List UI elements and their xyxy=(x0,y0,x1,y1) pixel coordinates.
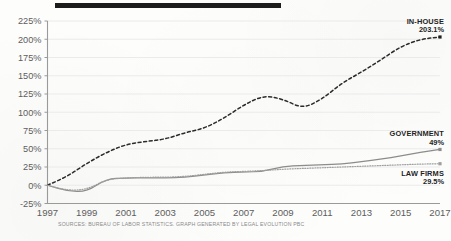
chart-figure: 225%200%175%150%125%100%75%50%25%0%-25% … xyxy=(0,0,451,241)
x-tick-label: 2001 xyxy=(115,207,136,218)
gridlines-group xyxy=(48,21,441,185)
y-tick-label: 50% xyxy=(23,144,41,154)
y-tick-label: 150% xyxy=(18,71,42,81)
y-tick-label: 125% xyxy=(18,89,42,99)
x-tick-label: 1999 xyxy=(76,207,97,218)
x-tick-label: 2003 xyxy=(155,207,176,218)
y-tick-label: 225% xyxy=(18,16,42,26)
y-tick-label: 75% xyxy=(23,126,41,136)
x-axis-tick-labels: 1997199920012003200520072009201120132015… xyxy=(37,207,451,218)
source-caption: SOURCES: BUREAU OF LABOR STATISTICS. GRA… xyxy=(58,221,304,227)
series-value-law-firms: 29.5% xyxy=(423,177,444,186)
y-tick-label: 175% xyxy=(18,53,42,63)
x-tick-label: 2015 xyxy=(390,207,411,218)
y-axis-tick-labels: 225%200%175%150%125%100%75%50%25%0%-25% xyxy=(18,16,42,209)
endpoint-marker-government xyxy=(438,148,441,151)
x-tick-label: 2011 xyxy=(312,207,333,218)
x-tick-label: 2005 xyxy=(194,207,215,218)
endpoint-marker-in-house xyxy=(438,35,441,38)
chart-svg: 225%200%175%150%125%100%75%50%25%0%-25% … xyxy=(0,0,451,241)
x-tick-label: 2007 xyxy=(233,207,254,218)
series-line-in-house xyxy=(48,37,441,185)
x-tick-label: 2017 xyxy=(429,207,450,218)
endpoint-marker-law-firms xyxy=(438,162,441,165)
series-value-in-house: 203.1% xyxy=(419,25,444,34)
line-chart: 225%200%175%150%125%100%75%50%25%0%-25% … xyxy=(0,0,451,241)
series-paths-group xyxy=(48,37,441,191)
y-tick-label: 100% xyxy=(18,108,42,118)
series-line-law-firms xyxy=(48,164,441,190)
y-tick-label: 25% xyxy=(23,162,41,172)
series-value-government: 49% xyxy=(429,138,444,147)
y-tick-label: 200% xyxy=(18,35,42,45)
series-annotations-group: IN-HOUSE203.1%GOVERNMENT49%LAW FIRMS29.5… xyxy=(390,17,445,186)
x-tick-label: 2013 xyxy=(351,207,372,218)
x-tick-label: 1997 xyxy=(37,207,58,218)
x-tick-label: 2009 xyxy=(272,207,293,218)
y-tick-label: 0% xyxy=(28,181,41,191)
